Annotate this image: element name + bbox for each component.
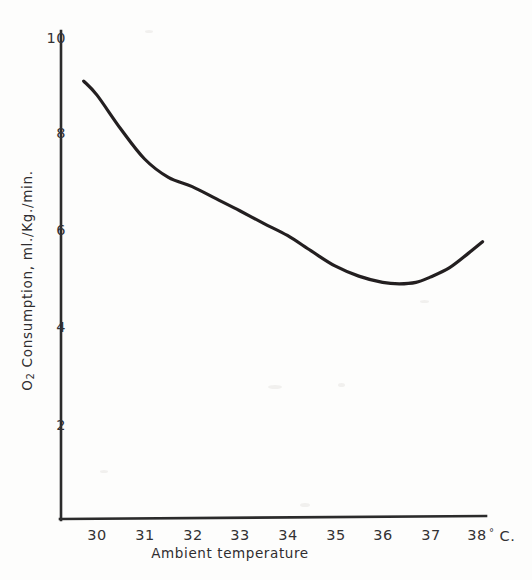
y-tick-label-8: 8: [34, 125, 66, 141]
x-tick-label-38: 38: [467, 527, 486, 543]
x-tick-label-34: 34: [278, 527, 297, 543]
x-axis-line: [60, 516, 486, 519]
x-axis-units-text: C.: [495, 528, 516, 544]
chart-figure: 10 8 6 4 2 30 31 32 33 34 35 36 37 38 ° …: [0, 0, 532, 580]
x-tick-label-35: 35: [326, 527, 345, 543]
y-tick-label-2: 2: [34, 417, 66, 433]
y-tick-label-4: 4: [34, 319, 66, 335]
y-axis-title-prefix: O: [19, 380, 35, 391]
x-tick-label-30: 30: [87, 527, 106, 543]
y-axis-title: O2 Consumption, ml./Kg./min.: [19, 121, 36, 441]
plot-area: [0, 0, 532, 580]
y-tick-label-10: 10: [34, 30, 66, 46]
x-tick-label-32: 32: [183, 527, 202, 543]
x-axis-units: ° C.: [489, 527, 515, 544]
x-tick-label-36: 36: [373, 527, 392, 543]
x-tick-label-31: 31: [135, 527, 154, 543]
y-tick-label-6: 6: [34, 222, 66, 238]
x-tick-label-37: 37: [421, 527, 440, 543]
y-axis-title-rest: Consumption, ml./Kg./min.: [19, 170, 35, 372]
data-series-line: [84, 81, 483, 284]
x-axis-title-text: Ambient temperature: [151, 545, 308, 561]
y-axis-title-subscript: 2: [25, 372, 36, 379]
x-tick-label-33: 33: [230, 527, 249, 543]
x-axis-title: Ambient temperature: [0, 545, 532, 561]
